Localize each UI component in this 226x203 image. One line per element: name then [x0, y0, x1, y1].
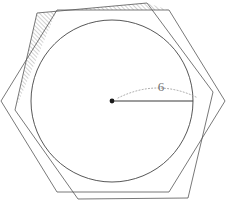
- geometry-figure: 6: [0, 0, 226, 203]
- hatched-area-shape: [16, 3, 169, 108]
- figure-canvas: 6: [0, 0, 226, 203]
- radius-label: 6: [158, 79, 165, 94]
- center-point-dot: [110, 99, 115, 104]
- hatched-region: [16, 3, 169, 108]
